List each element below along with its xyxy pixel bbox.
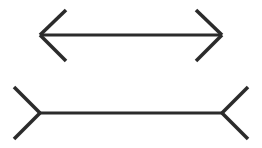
canvas-background xyxy=(0,0,262,148)
muller-lyer-illusion-figure xyxy=(0,0,262,148)
